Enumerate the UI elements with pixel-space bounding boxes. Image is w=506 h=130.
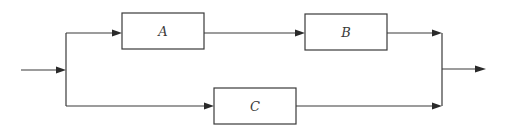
block-c: C: [214, 88, 296, 124]
block-a: A: [122, 13, 204, 49]
arrow-c-join-icon: [432, 103, 442, 110]
input-arrow-icon: [56, 67, 66, 74]
block-diagram: A B C: [0, 0, 506, 130]
block-b-label: B: [340, 25, 351, 40]
arrow-to-c-icon: [204, 103, 214, 110]
arrow-b-join-icon: [432, 30, 442, 37]
block-b: B: [305, 14, 387, 50]
block-c-label: C: [250, 99, 260, 114]
block-a-label: A: [157, 24, 167, 39]
arrow-to-b-icon: [295, 30, 305, 37]
output-arrow-icon: [475, 66, 486, 73]
arrow-to-a-icon: [112, 30, 122, 37]
